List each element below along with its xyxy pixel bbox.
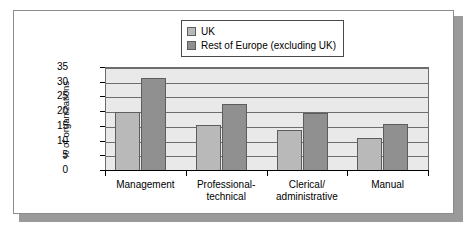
bar-1 <box>222 104 247 171</box>
bar-group <box>267 67 348 171</box>
y-tick-label: 30 <box>46 76 68 87</box>
y-tick-label: 35 <box>46 61 68 72</box>
y-tick-mark <box>100 126 105 127</box>
chart-legend: UK Rest of Europe (excluding UK) <box>181 20 344 57</box>
bar-group <box>105 67 186 171</box>
bar-0 <box>357 138 382 171</box>
figure-root: UK Rest of Europe (excluding UK) % of or… <box>0 0 470 233</box>
x-tick-mark <box>347 171 348 176</box>
y-tick-label: 5 <box>46 149 68 160</box>
x-category-label: Professional-technical <box>181 179 271 203</box>
legend-label-rest-of-europe: Rest of Europe (excluding UK) <box>201 40 336 51</box>
bars-layer <box>105 67 429 171</box>
x-tick-mark <box>186 171 187 176</box>
bar-1 <box>141 78 166 171</box>
y-tick-label: 15 <box>46 120 68 131</box>
y-tick-label: 10 <box>46 135 68 146</box>
x-category-label: Manual <box>343 179 433 191</box>
bar-0 <box>196 125 221 171</box>
bar-1 <box>383 124 408 171</box>
legend-item-uk: UK <box>187 24 336 38</box>
x-category-label: Management <box>100 179 190 191</box>
y-tick-label: 0 <box>46 164 68 175</box>
legend-label-uk: UK <box>201 26 215 37</box>
bar-0 <box>277 130 302 171</box>
y-tick-label: 20 <box>46 105 68 116</box>
y-tick-mark <box>100 82 105 83</box>
y-tick-mark <box>100 155 105 156</box>
x-tick-mark <box>105 171 106 176</box>
chart-panel: UK Rest of Europe (excluding UK) % of or… <box>13 10 454 214</box>
y-tick-label: 25 <box>46 90 68 101</box>
x-category-label: Clerical/administrative <box>262 179 352 203</box>
x-tick-mark <box>428 171 429 176</box>
legend-swatch-uk <box>187 27 196 36</box>
y-tick-mark <box>100 67 105 68</box>
y-tick-mark <box>100 141 105 142</box>
bar-1 <box>303 113 328 171</box>
legend-item-rest-of-europe: Rest of Europe (excluding UK) <box>187 38 336 52</box>
bar-group <box>347 67 428 171</box>
bar-group <box>186 67 267 171</box>
bar-0 <box>115 112 140 171</box>
x-tick-mark <box>267 171 268 176</box>
legend-swatch-rest-of-europe <box>187 41 196 50</box>
y-tick-mark <box>100 96 105 97</box>
y-tick-mark <box>100 111 105 112</box>
